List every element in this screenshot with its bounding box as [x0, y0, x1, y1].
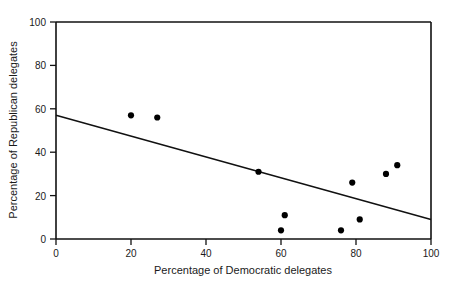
x-tick-label-0: 0 [53, 248, 59, 259]
y-tick-label-20: 20 [35, 191, 47, 202]
data-point [282, 212, 288, 218]
y-tick-label-0: 0 [40, 234, 46, 245]
y-axis-title: Percentage of Republican delegates [7, 41, 19, 219]
y-tick-label-60: 60 [35, 104, 47, 115]
data-point [154, 114, 160, 120]
data-point [128, 112, 134, 118]
y-tick-label-40: 40 [35, 147, 47, 158]
x-tick-label-100: 100 [423, 248, 440, 259]
data-point [383, 171, 389, 177]
x-tick-label-60: 60 [275, 248, 287, 259]
data-point [394, 162, 400, 168]
x-tick-label-80: 80 [350, 248, 362, 259]
y-tick-label-80: 80 [35, 60, 47, 71]
x-tick-label-40: 40 [200, 248, 212, 259]
x-tick-label-20: 20 [125, 248, 137, 259]
data-point [255, 169, 261, 175]
figure-background [0, 0, 453, 288]
x-axis-title: Percentage of Democratic delegates [154, 264, 332, 276]
y-tick-label-100: 100 [29, 17, 46, 28]
scatter-plot-figure: 0 20 40 60 80 100 0 20 40 60 80 100 Perc… [0, 0, 453, 288]
data-point [357, 216, 363, 222]
data-point [349, 179, 355, 185]
data-point [278, 227, 284, 233]
data-point [338, 227, 344, 233]
